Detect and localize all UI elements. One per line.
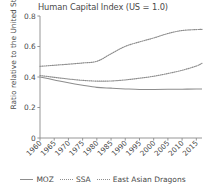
svg-text:0.6: 0.6 xyxy=(24,42,36,51)
series-line-ssa xyxy=(40,63,202,81)
svg-text:0.4: 0.4 xyxy=(24,73,36,82)
legend-entry-ssa[interactable]: SSA xyxy=(60,175,91,184)
legend-entry-moz[interactable]: MOZ xyxy=(20,175,54,184)
series-line-east-asian-dragons xyxy=(40,29,202,66)
legend-label: MOZ xyxy=(36,175,54,184)
chart-legend: MOZSSAEast Asian Dragons xyxy=(0,175,206,184)
svg-text:0.8: 0.8 xyxy=(24,12,36,21)
legend-entry-east-asian-dragons[interactable]: East Asian Dragons xyxy=(97,175,186,184)
svg-text:0.2: 0.2 xyxy=(24,103,36,112)
legend-label: East Asian Dragons xyxy=(113,175,186,184)
legend-swatch-icon xyxy=(97,179,110,180)
x-axis: 1960196519701975198019851990199520002005… xyxy=(24,138,202,158)
y-axis: 00.20.40.60.8 xyxy=(24,12,40,143)
plot-area: 00.20.40.60.8 19601965197019751980198519… xyxy=(0,0,206,189)
chart-figure: Human Capital Index (US = 1.0) Ratio rel… xyxy=(0,0,206,189)
legend-swatch-icon xyxy=(60,179,73,180)
legend-swatch-icon xyxy=(20,179,33,180)
series-group xyxy=(40,29,202,89)
legend-label: SSA xyxy=(76,175,91,184)
svg-text:2015: 2015 xyxy=(181,139,200,158)
